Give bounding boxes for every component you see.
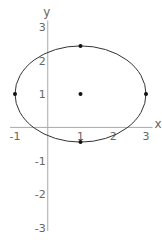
- x-tick-label: -1: [10, 130, 21, 143]
- y-tick-labels: -3-2-1123: [35, 21, 46, 234]
- y-axis-label: y: [43, 5, 50, 19]
- data-point: [79, 92, 83, 96]
- data-point: [79, 44, 83, 48]
- y-tick-label: -1: [35, 155, 46, 168]
- y-tick-label: -3: [35, 222, 46, 235]
- ellipse-plot: -1123 -3-2-1123 x y: [0, 0, 162, 240]
- x-tick-label: 3: [143, 130, 150, 143]
- data-point: [13, 92, 17, 96]
- y-tick-label: 1: [39, 88, 46, 101]
- marked-points: [13, 44, 148, 144]
- y-tick-label: -2: [35, 188, 46, 201]
- x-axis-label: x: [155, 117, 162, 131]
- data-point: [144, 92, 148, 96]
- data-point: [79, 140, 83, 144]
- y-tick-label: 3: [39, 21, 46, 34]
